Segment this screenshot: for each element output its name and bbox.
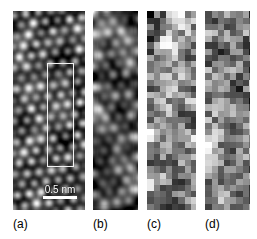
panel-label-b: (b) <box>93 217 108 231</box>
panel-b <box>93 11 138 210</box>
panel-label-c: (c) <box>147 217 161 231</box>
panel-c <box>147 11 196 210</box>
panel-b-image <box>93 11 138 210</box>
panel-label-d: (d) <box>205 217 220 231</box>
panel-d-image <box>205 11 250 210</box>
panel-a <box>13 11 85 210</box>
panel-label-a: (a) <box>13 217 28 231</box>
panel-c-image <box>147 11 196 210</box>
panel-d <box>205 11 250 210</box>
figure-canvas: 0.5 nm (a) (b) (c) (d) <box>0 0 257 239</box>
panel-a-image <box>13 11 85 210</box>
